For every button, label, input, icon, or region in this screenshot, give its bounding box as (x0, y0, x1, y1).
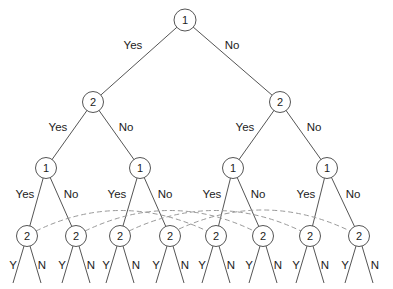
branch-label-y: Y (152, 259, 160, 271)
node-label: 2 (356, 230, 362, 242)
branch-label-no: No (307, 121, 322, 133)
branch-label-n: N (227, 259, 235, 271)
level2-node: 1 (130, 158, 151, 179)
level2-node: 1 (317, 158, 338, 179)
branch-label-no: No (119, 121, 134, 133)
branch-label-yes: Yes (49, 121, 68, 133)
node-label: 1 (43, 162, 49, 174)
level2-node: 1 (36, 158, 57, 179)
branch-label-y: Y (198, 259, 206, 271)
branch-label-no: No (346, 188, 361, 200)
leaf-node: 2 (349, 226, 370, 247)
node-label: 1 (182, 14, 188, 26)
node-label: 2 (307, 230, 313, 242)
branch-label-y: Y (102, 259, 110, 271)
branch-label-yes: Yes (236, 121, 255, 133)
leaf-node: 2 (110, 226, 131, 247)
branch-label-y: Y (58, 259, 66, 271)
branch-label-no: No (251, 188, 266, 200)
level1-node: 2 (83, 92, 104, 113)
leaf-node: 2 (17, 226, 38, 247)
node-label: 2 (277, 96, 283, 108)
node-label: 1 (230, 162, 236, 174)
branch-label-y: Y (341, 259, 349, 271)
branch-label-n: N (321, 259, 329, 271)
level1-node: 2 (270, 92, 291, 113)
root-node: 1 (174, 9, 196, 31)
tree-edges (13, 20, 373, 283)
node-label: 2 (213, 230, 219, 242)
branch-label-yes: Yes (297, 188, 316, 200)
branch-label-n: N (132, 259, 140, 271)
branch-label-n: N (274, 259, 282, 271)
leaf-node: 2 (66, 226, 87, 247)
node-label: 2 (73, 230, 79, 242)
leaf-node: 2 (300, 226, 321, 247)
leaf-node: 2 (206, 226, 227, 247)
branch-label-y: Y (9, 259, 17, 271)
leaf-node: 2 (253, 226, 274, 247)
node-label: 1 (324, 162, 330, 174)
branch-label-n: N (181, 259, 189, 271)
node-label: 2 (90, 96, 96, 108)
branch-label-no: No (158, 188, 173, 200)
node-label: 1 (137, 162, 143, 174)
branch-label-n: N (38, 259, 46, 271)
branch-label-yes: Yes (124, 39, 143, 51)
branch-label-no: No (64, 188, 79, 200)
branch-labels: Yes No Yes No Yes No Yes No Yes No Yes N… (9, 39, 379, 271)
node-label: 2 (24, 230, 30, 242)
branch-label-y: Y (292, 259, 300, 271)
branch-label-yes: Yes (203, 188, 222, 200)
game-tree-diagram: Yes No Yes No Yes No Yes No Yes No Yes N… (0, 0, 393, 289)
leaf-node: 2 (160, 226, 181, 247)
node-label: 2 (167, 230, 173, 242)
node-label: 2 (117, 230, 123, 242)
branch-label-yes: Yes (16, 188, 35, 200)
branch-label-n: N (87, 259, 95, 271)
node-label: 2 (260, 230, 266, 242)
branch-label-yes: Yes (108, 188, 127, 200)
level2-node: 1 (223, 158, 244, 179)
branch-label-n: N (371, 259, 379, 271)
branch-label-no: No (225, 39, 240, 51)
branch-label-y: Y (245, 259, 253, 271)
